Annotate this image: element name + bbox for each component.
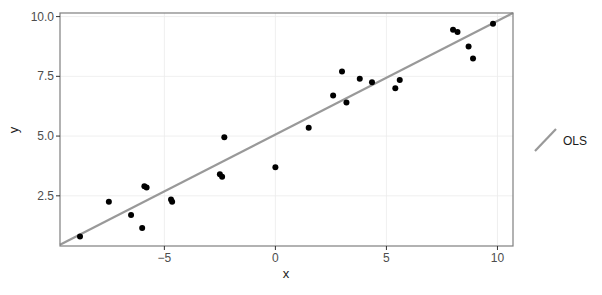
legend-label-ols: OLS (563, 134, 587, 148)
data-point (397, 77, 403, 83)
x-tick-label: 5 (383, 251, 390, 265)
x-tick-label: 0 (272, 251, 279, 265)
y-tick-label: 5.0 (37, 129, 54, 143)
legend-line-key-icon (535, 129, 556, 151)
data-point (106, 199, 112, 205)
data-point (77, 233, 83, 239)
data-point (490, 21, 496, 27)
data-point (454, 29, 460, 35)
data-point (144, 184, 150, 190)
scatter-chart: −50510 2.55.07.510.0 x y OLS (0, 0, 602, 295)
data-point (221, 134, 227, 140)
data-point (169, 199, 175, 205)
x-tick-label: −5 (158, 251, 172, 265)
x-axis-title: x (283, 266, 290, 281)
data-point (139, 225, 145, 231)
y-tick-label: 2.5 (37, 189, 54, 203)
y-tick-label: 10.0 (31, 10, 55, 24)
data-point (339, 69, 345, 75)
data-point (369, 79, 375, 85)
legend: OLS (535, 129, 587, 151)
data-point (272, 164, 278, 170)
data-point (128, 212, 134, 218)
data-point (343, 100, 349, 106)
data-point (357, 76, 363, 82)
data-point (306, 125, 312, 131)
ols-fit-line (60, 13, 513, 245)
data-point (392, 85, 398, 91)
data-point (470, 55, 476, 61)
x-tick-label: 10 (491, 251, 505, 265)
data-point (219, 174, 225, 180)
y-axis: 2.55.07.510.0 (31, 10, 60, 203)
data-point (330, 92, 336, 98)
data-point (466, 43, 472, 49)
y-axis-title: y (6, 126, 21, 133)
x-axis: −50510 (158, 246, 505, 265)
ols-line (60, 13, 513, 245)
y-tick-label: 7.5 (37, 69, 54, 83)
